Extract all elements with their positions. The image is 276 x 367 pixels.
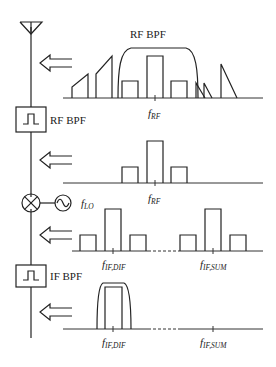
rf-bpf-block: RF BPF xyxy=(16,107,86,132)
antenna-icon xyxy=(20,22,42,34)
arrow-left-icon xyxy=(40,304,72,320)
f-if-dif-label: fIF,DIF xyxy=(102,336,126,350)
if-bpf-block: IF BPF xyxy=(16,265,82,287)
f-rf-label: fRF xyxy=(148,192,161,206)
rf-bpf-curve-label: RF BPF xyxy=(130,28,166,40)
arrow-left-icon xyxy=(40,55,72,71)
spectrum-input: RF BPF fRF xyxy=(63,28,263,121)
arrow-left-icon xyxy=(40,152,72,168)
mixer-icon xyxy=(22,194,55,212)
bandpass-icon xyxy=(23,271,39,280)
receiver-diagram: RF BPF fRF RF BPF fRF fLO xyxy=(0,0,276,367)
f-rf-label: fRF xyxy=(148,107,161,121)
local-oscillator-icon xyxy=(55,195,71,211)
rf-bpf-label: RF BPF xyxy=(50,114,86,126)
f-if-sum-label: fIF,SUM xyxy=(200,258,227,272)
if-bpf-label: IF BPF xyxy=(50,270,82,282)
f-if-dif-label: fIF,DIF xyxy=(102,258,126,272)
bandpass-icon xyxy=(23,114,39,124)
f-if-sum-label: fIF,SUM xyxy=(200,336,227,350)
spectrum-after-if-bpf: fIF,DIF fIF,SUM xyxy=(63,283,263,350)
arrow-left-icon xyxy=(40,227,72,243)
spectrum-after-rf-bpf: fRF xyxy=(63,141,263,206)
spectrum-after-mixer: fIF,DIF fIF,SUM xyxy=(72,209,263,272)
f-lo-label: fLO xyxy=(81,197,94,211)
